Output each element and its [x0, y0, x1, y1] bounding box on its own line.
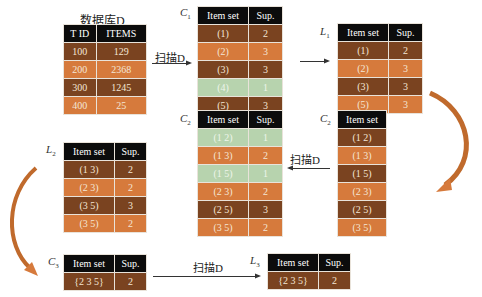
arrowhead-icon [186, 61, 192, 66]
arrowhead-icon [255, 274, 261, 279]
curved-arrow-icon [430, 93, 466, 185]
arrowhead-icon [287, 166, 293, 171]
curved-arrow-icon [12, 168, 36, 268]
arrowhead-icon [324, 59, 330, 64]
connector-arrows [0, 0, 482, 297]
